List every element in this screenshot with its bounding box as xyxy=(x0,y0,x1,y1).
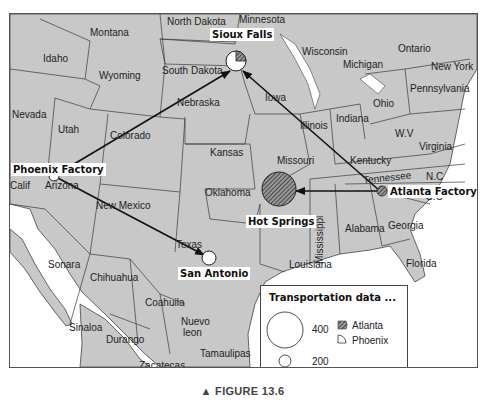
region-label-north-dakota: North Dakota xyxy=(167,17,226,27)
legend-size-200-icon xyxy=(279,355,291,367)
legend-size-label-400: 400 xyxy=(312,324,329,335)
region-label-mississippi: Mississippi xyxy=(315,216,325,264)
region-label-new-york: New York xyxy=(431,62,473,72)
region-label-michigan: Michigan xyxy=(343,60,383,70)
region-label-wyoming: Wyoming xyxy=(99,71,141,81)
region-label-calif: Calif xyxy=(10,181,30,191)
legend-series-atlanta: Atlanta xyxy=(352,320,383,331)
region-label-south-dakota: South Dakota xyxy=(162,66,223,76)
region-label-kansas: Kansas xyxy=(210,148,243,158)
region-label-ohio: Ohio xyxy=(373,99,394,109)
region-label-tamaulipas: Tamaulipas xyxy=(200,349,251,359)
region-label-florida: Florida xyxy=(406,259,437,269)
region-label-wisconsin: Wisconsin xyxy=(302,47,348,57)
region-label-sinaloa: Sinaloa xyxy=(69,323,102,333)
region-label-illinois: Illinois xyxy=(300,121,328,131)
sioux-falls-symbol xyxy=(226,51,246,71)
region-label-idaho: Idaho xyxy=(43,54,68,64)
region-label-nevada: Nevada xyxy=(12,110,46,120)
region-label-louisiana: Louisiana xyxy=(289,260,332,270)
region-label-montana: Montana xyxy=(90,28,129,38)
region-label-chihuahua: Chihuahua xyxy=(90,273,138,283)
region-label-indiana: Indiana xyxy=(336,114,369,124)
region-label-virginia: Virginia xyxy=(419,142,452,152)
region-label-nebraska: Nebraska xyxy=(177,98,220,108)
region-label-sonara: Sonara xyxy=(48,260,80,270)
region-label-oklahoma: Oklahoma xyxy=(205,188,251,198)
region-label-minnesota: Minnesota xyxy=(239,15,285,25)
region-label-texas: Texas xyxy=(176,240,202,250)
map-panel: MontanaNorth DakotaMinnesotaIdahoWyoming… xyxy=(9,13,478,368)
city-label-sioux-falls: Sioux Falls xyxy=(210,28,274,41)
region-label-pennsylvania: Pennsylvania xyxy=(410,84,469,94)
region-label-n-c: N.C xyxy=(426,172,443,182)
hot-springs-symbol xyxy=(262,172,296,206)
region-label-w-v: W.V xyxy=(395,129,413,139)
region-label-arizona: Arizona xyxy=(45,181,79,191)
city-label-atlanta-factory: Atlanta Factory xyxy=(388,185,478,198)
legend-phoenix-swatch-icon xyxy=(338,335,346,343)
region-label-coahuila: Coahuila xyxy=(145,298,184,308)
region-label-utah: Utah xyxy=(58,125,79,135)
region-label-colorado: Colorado xyxy=(110,131,151,141)
legend-series-phoenix: Phoenix xyxy=(352,335,388,346)
city-label-phoenix-factory: Phoenix Factory xyxy=(11,163,106,176)
figure-caption: ▲ FIGURE 13.6 xyxy=(0,385,485,397)
region-label-missouri: Missouri xyxy=(277,156,314,166)
legend-atlanta-swatch-icon xyxy=(338,321,347,329)
region-label-georgia: Georgia xyxy=(388,221,424,231)
legend: Transportation data ... 400 200 0 Atlant… xyxy=(260,285,408,368)
legend-symbols xyxy=(261,286,407,368)
region-label-leon: leon xyxy=(183,328,202,338)
atlanta-factory-symbol xyxy=(377,186,387,196)
region-label-iowa: Iowa xyxy=(265,93,286,103)
region-label-kentucky: Kentucky xyxy=(350,156,391,166)
region-label-zacatecas: Zacatecas xyxy=(139,361,185,368)
region-label-new-mexico: New Mexico xyxy=(96,201,150,211)
region-label-alabama: Alabama xyxy=(345,224,384,234)
san-antonio-symbol xyxy=(202,251,216,265)
legend-size-400-icon xyxy=(267,312,303,348)
region-label-ontario: Ontario xyxy=(398,44,431,54)
region-label-nuevo: Nuevo xyxy=(181,317,210,327)
city-label-hot-springs: Hot Springs xyxy=(246,215,316,228)
city-label-san-antonio: San Antonio xyxy=(178,267,250,280)
legend-size-label-200: 200 xyxy=(312,356,329,367)
region-label-durango: Durango xyxy=(106,335,144,345)
